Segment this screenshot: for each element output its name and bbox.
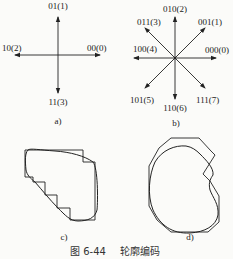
origin-dot (174, 57, 176, 59)
figure-caption: 图 6-44 轮廓编码 (70, 245, 160, 257)
panel-d-8-direction-contour: d) (149, 138, 219, 242)
code-label-b-down: 110(6) (163, 103, 187, 113)
panel-b-8-direction-diagram: 010(2) 011(3) 001(1) 100(4) 000(0) 101(5… (130, 4, 229, 128)
panel-b-label: b) (172, 118, 180, 128)
arrow-down-right-icon (175, 58, 205, 88)
caption-number: 图 6-44 (70, 246, 106, 257)
arrow-up-right-icon (175, 28, 205, 58)
panel-c-label: c) (61, 232, 68, 242)
code-label-a-left: 10(2) (2, 43, 22, 53)
code-label-b-left: 100(4) (133, 44, 157, 54)
code-label-b-up: 010(2) (163, 4, 187, 14)
smooth-contour-c (25, 149, 97, 221)
panel-c-4-direction-contour: c) (25, 149, 98, 242)
code-label-b-down-left: 101(5) (130, 95, 154, 105)
code-label-a-right: 00(0) (87, 43, 107, 53)
code-label-b-up-left: 011(3) (137, 17, 161, 27)
arrow-down-left-icon (145, 58, 175, 88)
code-label-b-up-right: 001(1) (198, 17, 222, 27)
caption-title: 轮廓编码 (120, 245, 160, 257)
smooth-contour-d (149, 146, 218, 233)
panel-a-label: a) (55, 116, 62, 126)
chain-code-contour-d (149, 138, 219, 232)
code-label-a-up: 01(1) (48, 1, 68, 11)
code-label-a-down: 11(3) (48, 97, 67, 107)
figure-canvas: 01(1) 10(2) 00(0) 11(3) a) 010(2) 011(3)… (0, 0, 233, 259)
code-label-b-down-right: 111(7) (196, 95, 219, 105)
panel-a-4-direction-diagram: 01(1) 10(2) 00(0) 11(3) a) (2, 1, 107, 126)
panel-d-label: d) (186, 232, 194, 242)
code-label-b-right: 000(0) (205, 45, 229, 55)
